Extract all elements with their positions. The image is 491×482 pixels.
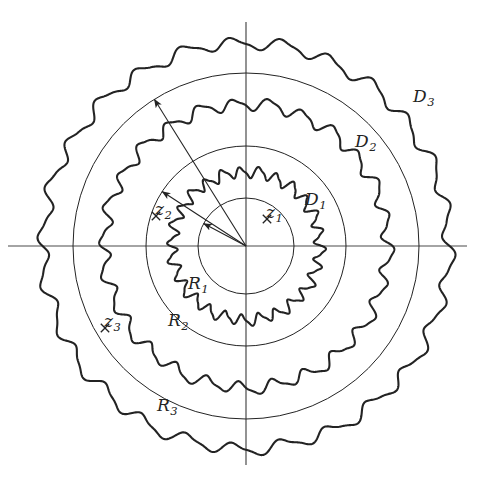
figure-canvas: D1D2D3R1R2R3z1z2z3 — [0, 0, 491, 482]
domain-label-d1-subscript: 1 — [319, 198, 326, 212]
domain-label-d2-base: D — [355, 131, 369, 151]
domain-label-d1: D1 — [305, 191, 326, 211]
radius-label-r1: R1 — [188, 275, 209, 295]
domain-label-d1-base: D — [305, 189, 319, 209]
domain-label-d2: D2 — [355, 133, 376, 153]
point-label-z3-base: z — [104, 311, 113, 331]
diagram-svg — [0, 0, 491, 482]
radius-arrow-r1 — [204, 223, 246, 246]
point-label-z1-subscript: 1 — [275, 211, 282, 225]
point-label-z3: z3 — [104, 313, 121, 333]
point-label-z1-base: z — [266, 202, 275, 222]
axes-group — [8, 22, 467, 465]
domain-label-d3: D3 — [413, 88, 434, 108]
domain-label-d2-subscript: 2 — [369, 140, 376, 154]
radius-label-r3-base: R — [157, 395, 170, 415]
point-label-z1: z1 — [266, 204, 283, 224]
radius-label-r2: R2 — [168, 312, 189, 332]
radius-label-r1-subscript: 1 — [201, 282, 208, 296]
domain-label-d3-subscript: 3 — [427, 95, 434, 109]
domain-label-d3-base: D — [413, 86, 427, 106]
point-label-z2-base: z — [155, 199, 164, 219]
point-label-z3-subscript: 3 — [113, 320, 120, 334]
radius-label-r1-base: R — [188, 273, 201, 293]
point-label-z2-subscript: 2 — [164, 208, 171, 222]
radius-label-r2-subscript: 2 — [181, 319, 188, 333]
radius-label-r3-subscript: 3 — [170, 404, 177, 418]
radius-label-r3: R3 — [157, 397, 178, 417]
point-label-z2: z2 — [155, 201, 172, 221]
radius-label-r2-base: R — [168, 310, 181, 330]
